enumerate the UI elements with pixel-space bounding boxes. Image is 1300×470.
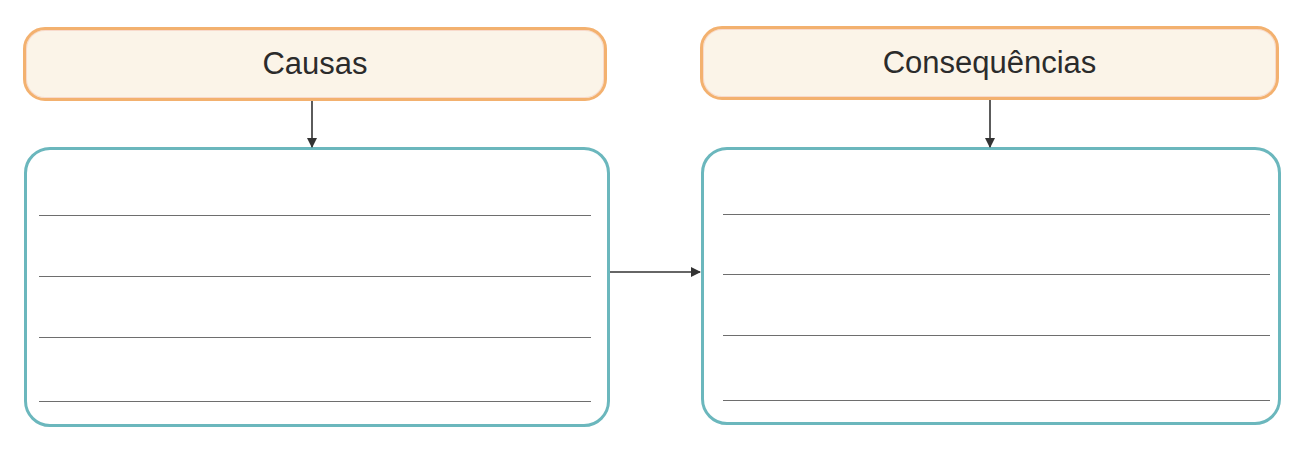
consequences-header: Consequências — [700, 26, 1279, 100]
causes-header-label: Causas — [262, 46, 367, 82]
consequences-answer-line-3[interactable] — [723, 335, 1270, 336]
consequences-header-label: Consequências — [883, 45, 1097, 81]
causes-header: Causas — [23, 27, 607, 101]
causes-answer-line-2[interactable] — [39, 276, 591, 277]
consequences-answer-line-1[interactable] — [723, 214, 1270, 215]
consequences-answer-line-2[interactable] — [723, 274, 1270, 275]
consequences-answer-box[interactable] — [701, 147, 1281, 425]
causes-answer-line-3[interactable] — [39, 337, 591, 338]
consequences-answer-line-4[interactable] — [723, 400, 1270, 401]
causes-answer-line-1[interactable] — [39, 215, 591, 216]
causes-answer-box[interactable] — [24, 147, 610, 427]
causes-answer-line-4[interactable] — [39, 401, 591, 402]
